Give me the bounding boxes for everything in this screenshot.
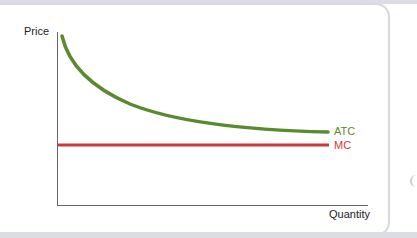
mc-label: MC (334, 139, 351, 151)
cost-curves-chart (0, 0, 417, 238)
x-axis-label: Quantity (329, 208, 370, 220)
atc-curve (62, 36, 328, 132)
atc-label: ATC (334, 125, 355, 137)
y-axis-label: Price (24, 25, 49, 37)
